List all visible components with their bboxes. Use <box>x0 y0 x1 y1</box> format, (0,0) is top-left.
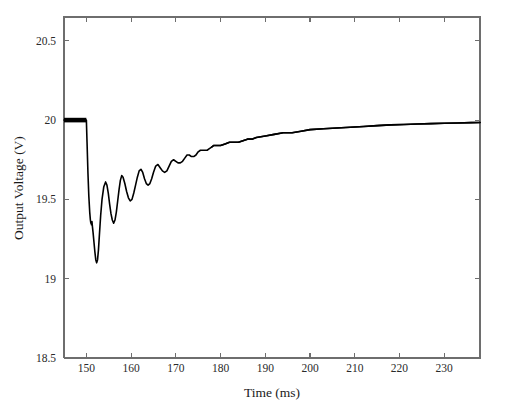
chart-figure: 150160170180190200210220230 18.51919.520… <box>0 0 507 410</box>
y-axis-title: Output Voltage (V) <box>11 136 26 240</box>
x-tick-label: 210 <box>346 362 364 374</box>
x-tick-label: 150 <box>78 362 96 374</box>
x-tick-label: 230 <box>436 362 454 374</box>
x-axis-title: Time (ms) <box>244 385 300 400</box>
x-tick-label: 190 <box>257 362 275 374</box>
x-tick-label: 200 <box>301 362 319 374</box>
y-tick-label: 19 <box>45 273 57 285</box>
y-tick-label: 18.5 <box>36 352 56 364</box>
x-tick-label: 220 <box>391 362 409 374</box>
plot-background <box>0 0 507 410</box>
y-tick-label: 20.5 <box>36 35 56 47</box>
x-tick-label: 160 <box>122 362 140 374</box>
x-axis-tick-labels: 150160170180190200210220230 <box>78 362 453 374</box>
y-tick-label: 19.5 <box>36 193 56 205</box>
y-tick-label: 20 <box>45 114 57 126</box>
output-voltage-plot: 150160170180190200210220230 18.51919.520… <box>0 0 507 410</box>
x-tick-label: 180 <box>212 362 230 374</box>
x-tick-label: 170 <box>167 362 185 374</box>
